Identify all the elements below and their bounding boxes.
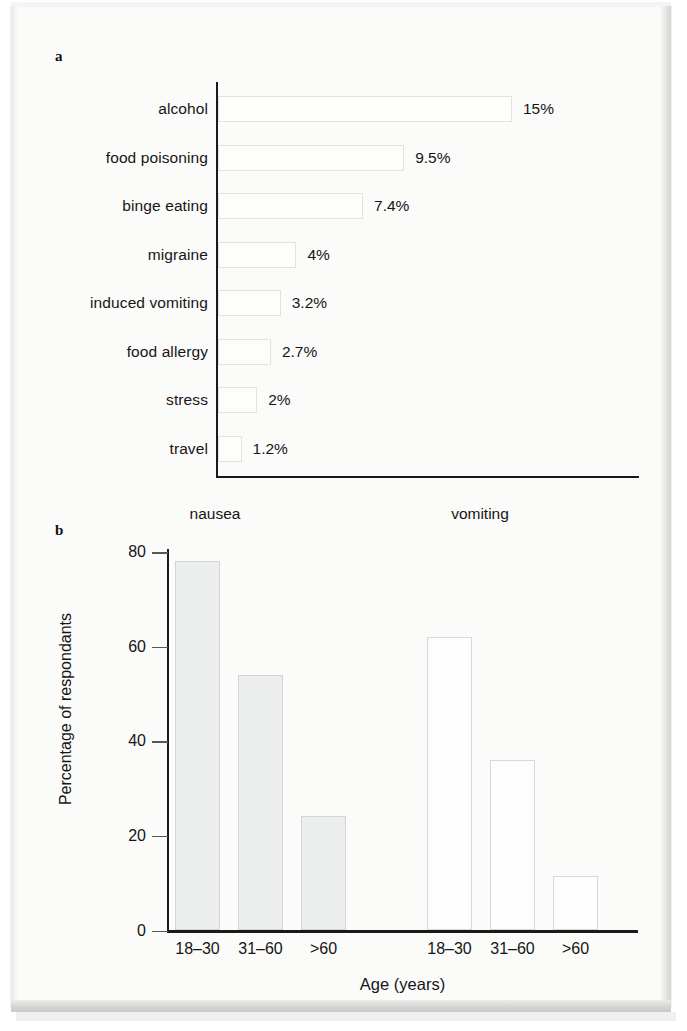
panel-b-x-axis-line [167,930,638,933]
panel-b-bar [490,760,535,930]
panel-b-y-tick [152,647,168,649]
panel-b-bar [553,876,598,930]
panel-b-y-tick-label: 60 [104,639,146,655]
panel-b-y-tick-label: 80 [104,544,146,560]
panel-b-bar [238,675,283,930]
panel-b-bar [427,637,472,930]
panel-b-y-tick [152,931,168,933]
panel-b-x-axis-label: Age (years) [167,975,638,994]
panel-b-y-tick-label: 40 [104,733,146,749]
panel-b-bar [175,561,220,930]
panel-b-x-tick-label: >60 [286,940,362,958]
panel-b-y-axis-label: Percentage of respondants [57,589,75,829]
panel-b-x-tick-label: >60 [538,940,614,958]
panel-b-y-tick [152,552,168,554]
panel-b-bar [301,816,346,930]
panel-b-y-tick [152,741,168,743]
panel-b-letter: b [55,522,63,539]
panel-b-chart: b 020406080 Percentage of respondants na… [0,0,687,1031]
figure-page: a alcohol15%food poisoning9.5%binge eati… [0,0,687,1031]
panel-b-y-tick-label: 0 [104,923,146,939]
panel-b-group-title: nausea [135,505,295,523]
panel-b-group-title: vomiting [400,505,560,523]
panel-b-plot-area [169,549,638,930]
panel-b-y-tick-label: 20 [104,828,146,844]
panel-b-y-tick [152,836,168,838]
